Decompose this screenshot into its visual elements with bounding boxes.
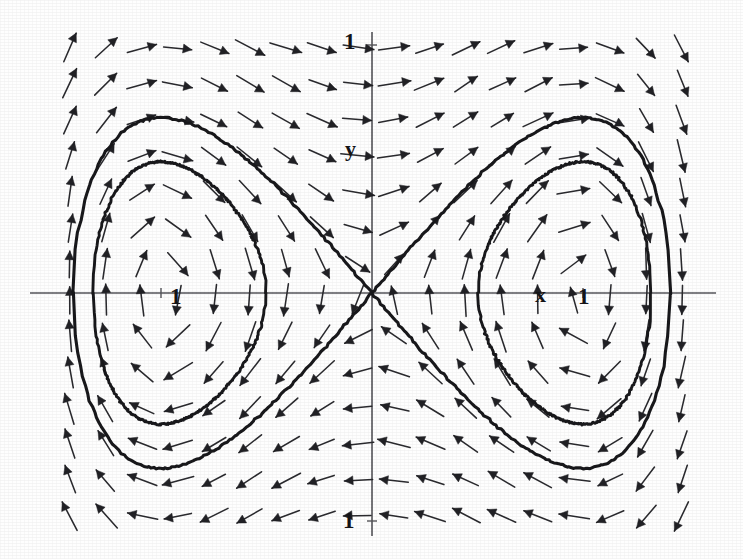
vector-arrow-head	[344, 476, 353, 485]
vector-arrow-head	[678, 272, 687, 281]
vector-field-group	[62, 33, 689, 531]
x-axis-right-tick-label: 1	[578, 285, 590, 308]
vector-arrow-head	[580, 221, 590, 230]
vector-arrow-head	[212, 269, 221, 279]
vector-arrow-head	[316, 304, 325, 313]
vector-arrow-head	[538, 215, 547, 225]
vector-arrow-head	[147, 43, 157, 52]
vector-arrow-head	[65, 320, 74, 329]
vector-arrow-head	[417, 400, 427, 408]
vector-arrow-head	[417, 475, 427, 483]
vector-arrow-head	[560, 439, 569, 448]
vector-arrow-head	[460, 285, 469, 294]
vector-arrow-head	[69, 106, 77, 116]
vector-arrow-head	[608, 267, 617, 277]
vector-arrow-head	[378, 437, 388, 446]
vector-arrow-head	[146, 150, 156, 158]
vector-arrow-head	[210, 304, 219, 313]
vector-arrow-head	[576, 255, 586, 264]
vector-arrow-head	[381, 403, 391, 412]
vector-arrow-head	[605, 306, 614, 315]
vector-arrow-head	[454, 436, 464, 445]
vector-arrow-head	[342, 440, 351, 449]
vector-arrow-head	[677, 483, 686, 493]
vector-arrow-head	[162, 478, 172, 487]
vector-arrow-head	[560, 366, 570, 375]
vector-arrow-head	[579, 80, 588, 89]
y-axis-top-tick-label: 1	[344, 30, 356, 53]
vector-arrow-head	[65, 357, 74, 366]
vector-arrow-head	[681, 87, 689, 97]
vector-arrow-head	[428, 250, 437, 260]
vector-arrow-head	[425, 285, 434, 294]
vector-arrow-head	[128, 473, 138, 482]
vector-arrow-head	[248, 270, 257, 279]
vector-arrow-head	[363, 226, 373, 235]
vector-arrow-head	[327, 46, 337, 55]
vector-arrow-head	[679, 163, 688, 173]
vector-arrow-head	[679, 233, 688, 242]
vector-arrow-head	[466, 216, 474, 226]
vector-arrow-head	[280, 307, 289, 316]
vector-arrow-head	[181, 229, 191, 238]
vector-arrow-head	[497, 285, 506, 294]
vector-arrow-head	[63, 393, 72, 403]
vector-arrow-head	[327, 83, 337, 92]
vector-arrow-head	[286, 232, 294, 242]
vector-arrow-head	[136, 285, 145, 294]
vector-arrow-head	[389, 286, 398, 295]
vector-arrow-head	[679, 125, 687, 135]
vector-arrow-head	[464, 249, 473, 258]
vector-arrow-head	[380, 511, 389, 520]
vector-arrow-head	[219, 46, 229, 54]
vector-arrow-head	[677, 342, 686, 351]
vector-arrow-head	[183, 82, 192, 91]
vector-arrow-head	[343, 404, 352, 413]
vector-arrow-head	[183, 44, 192, 53]
vector-arrow-head	[102, 249, 111, 258]
vector-arrow-head	[399, 114, 408, 123]
vector-arrow-head	[679, 197, 688, 206]
vector-arrow-head	[163, 442, 173, 451]
vector-arrow-head	[309, 513, 319, 522]
vector-arrow-head	[64, 465, 72, 475]
phase-portrait-figure: 1 1 1 1 y x	[0, 0, 743, 559]
vector-arrow-head	[237, 480, 247, 489]
vector-arrow-head	[676, 449, 685, 459]
vector-arrow-head	[422, 323, 430, 333]
vector-arrow-head	[183, 154, 193, 163]
vector-arrow-head	[468, 112, 478, 120]
vector-arrow-head	[66, 176, 75, 185]
vector-arrow-head	[164, 513, 173, 522]
vector-arrow-head	[490, 436, 500, 445]
vector-arrow-head	[400, 151, 409, 160]
x-axis-name-label: x	[535, 284, 546, 306]
vector-arrow-head	[64, 429, 73, 439]
vector-arrow-head	[282, 267, 291, 277]
vector-arrow-head	[65, 251, 74, 260]
vector-arrow-head	[610, 231, 619, 241]
y-axis-bottom-tick-label: 1	[343, 509, 355, 532]
vector-arrow-head	[311, 408, 321, 416]
vector-arrow-head	[537, 250, 546, 260]
vector-arrow-head	[309, 442, 319, 450]
vector-arrow-head	[108, 107, 117, 117]
vector-arrow-head	[581, 186, 590, 195]
vector-arrow-head	[568, 287, 577, 297]
vector-arrow-head	[468, 76, 478, 84]
vector-arrow-head	[457, 359, 466, 369]
vector-arrow-head	[675, 379, 684, 388]
vector-arrow-head	[494, 322, 503, 332]
vector-arrow-head	[324, 192, 334, 201]
vector-arrow-head	[102, 284, 111, 293]
phase-portrait-canvas	[0, 0, 743, 559]
vector-arrow-head	[244, 306, 253, 315]
vector-arrow-head	[214, 231, 223, 241]
vector-arrow-head	[128, 510, 137, 519]
vector-arrow-head	[678, 306, 687, 315]
vector-arrow-head	[381, 327, 391, 336]
vector-arrow-head	[543, 42, 553, 51]
vector-arrow-head	[147, 79, 157, 88]
vector-arrow-head	[365, 190, 374, 199]
vector-arrow-head	[541, 147, 551, 155]
